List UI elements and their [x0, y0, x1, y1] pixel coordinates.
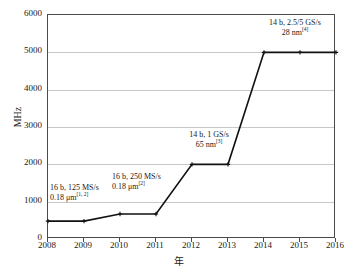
y-axis-title: MHz [13, 87, 23, 147]
data-series-line [48, 15, 336, 239]
annotation-reference: [2] [139, 180, 145, 186]
x-axis-tick-label: 2012 [171, 240, 211, 250]
x-axis-title: 年 [0, 256, 357, 267]
data-point-marker [262, 50, 266, 54]
y-axis-tick-label: 1000 [0, 196, 42, 205]
annotation-line-2: 65 nm[3] [168, 140, 250, 150]
data-point-marker [334, 50, 338, 54]
data-point-marker [226, 162, 230, 166]
annotation-process: 65 nm [196, 140, 216, 149]
annotation-line-2: 28 nm[4] [248, 28, 342, 38]
y-axis-tick-label: 6000 [0, 9, 42, 18]
x-axis-tick-label: 2009 [63, 240, 103, 250]
annotation-line-1: 14 b, 1 GS/s [168, 130, 250, 140]
y-axis-tick-label: 2000 [0, 158, 42, 167]
annotation-reference: [1, 2] [77, 191, 89, 197]
annotation-callout: 14 b, 1 GS/s 65 nm[3] [168, 130, 250, 149]
annotation-callout: 14 b, 2.5/5 GS/s 28 nm[4] [248, 18, 342, 37]
plot-area [47, 14, 335, 238]
annotation-process: 0.18 μm [112, 182, 139, 191]
annotation-line-2: 0.18 μm[1, 2] [50, 193, 99, 203]
x-axis-tick-label: 2015 [279, 240, 319, 250]
data-point-marker [118, 212, 122, 216]
x-axis-tick-label: 2016 [315, 240, 355, 250]
annotation-line-1: 16 b, 250 MS/s [112, 172, 161, 182]
x-axis-tick-label: 2011 [135, 240, 175, 250]
x-axis-tick-label: 2008 [27, 240, 67, 250]
annotation-line-1: 16 b, 125 MS/s [50, 183, 99, 193]
annotation-reference: [3] [216, 138, 222, 144]
data-point-marker [46, 219, 50, 223]
annotation-line-2: 0.18 μm[2] [112, 182, 161, 192]
annotation-process: 0.18 μm [50, 193, 77, 202]
data-point-marker [82, 219, 86, 223]
annotation-process: 28 nm [282, 28, 302, 37]
y-axis-tick-label: 5000 [0, 46, 42, 55]
annotation-callout: 16 b, 125 MS/s 0.18 μm[1, 2] [50, 183, 99, 202]
line-chart: MHz 6000 5000 4000 3000 2000 1000 0 2008… [0, 0, 357, 278]
x-axis-tick-label: 2010 [99, 240, 139, 250]
annotation-line-1: 14 b, 2.5/5 GS/s [248, 18, 342, 28]
y-axis-tick-label: 3000 [0, 121, 42, 130]
y-axis-tick-label: 4000 [0, 84, 42, 93]
x-axis-tick-label: 2013 [207, 240, 247, 250]
annotation-callout: 16 b, 250 MS/s 0.18 μm[2] [112, 172, 161, 191]
x-axis-tick-label: 2014 [243, 240, 283, 250]
annotation-reference: [4] [302, 26, 308, 32]
data-point-marker [298, 50, 302, 54]
